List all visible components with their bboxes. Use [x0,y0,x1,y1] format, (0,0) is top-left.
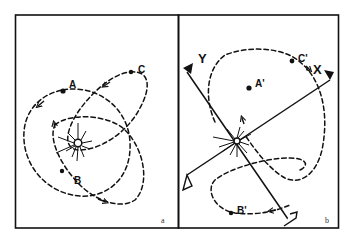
label-c-prime: C' [298,53,308,64]
sun-burst-icon-b [213,127,251,157]
x-axis-arrowhead-top [324,70,334,80]
point-b-prime: B' [229,205,247,216]
point-a-prime: A' [246,78,264,91]
panel-b-frame [179,15,339,228]
label-a-prime: A' [255,78,265,89]
panel-b-label: b [325,216,329,225]
orbit-wide [53,117,144,204]
point-c: C [129,64,145,75]
sun-burst-icon [56,123,92,161]
panel-b: Y X A' B' [179,15,339,228]
panel-a: A B C a [16,15,179,228]
label-c: C [138,64,145,75]
arrow-orbit-center [242,118,244,124]
label-x-axis: X [313,62,322,77]
arrow-orbit-b-prime [270,210,276,211]
diagram-canvas: A B C a [0,0,350,246]
panel-a-frame [16,15,179,228]
label-y-axis: Y [198,51,207,66]
orbit-lower-b [211,158,305,214]
point-a: A [60,79,76,94]
y-axis-arrowhead-bottom [284,212,297,226]
panel-a-label: a [161,216,165,225]
label-a: A [69,79,76,90]
x-axis-arrowhead-bottom [183,175,192,190]
point-b: B [60,169,81,186]
label-b: B [74,175,81,186]
arrow-orbit-wide [54,123,55,128]
point-c-prime: C' [290,53,308,64]
label-b-prime: B' [237,205,247,216]
